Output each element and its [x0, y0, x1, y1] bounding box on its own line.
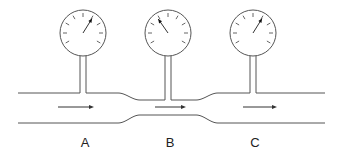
gauges — [60, 10, 276, 93]
pipe — [18, 93, 325, 123]
pipe-bottom-wall — [18, 115, 325, 123]
flow-arrows — [58, 105, 277, 109]
gauge-c — [230, 10, 276, 93]
flow-arrow-icon — [155, 105, 186, 109]
label-a: A — [81, 136, 90, 149]
pipe-top-wall — [86, 93, 165, 100]
pipe-top-wall — [171, 93, 250, 100]
gauge-a — [60, 10, 106, 93]
label-c: C — [250, 136, 259, 149]
label-b: B — [166, 136, 175, 149]
flow-arrow-icon — [243, 105, 277, 109]
flow-arrow-icon — [58, 105, 94, 109]
gauge-b — [145, 10, 191, 93]
